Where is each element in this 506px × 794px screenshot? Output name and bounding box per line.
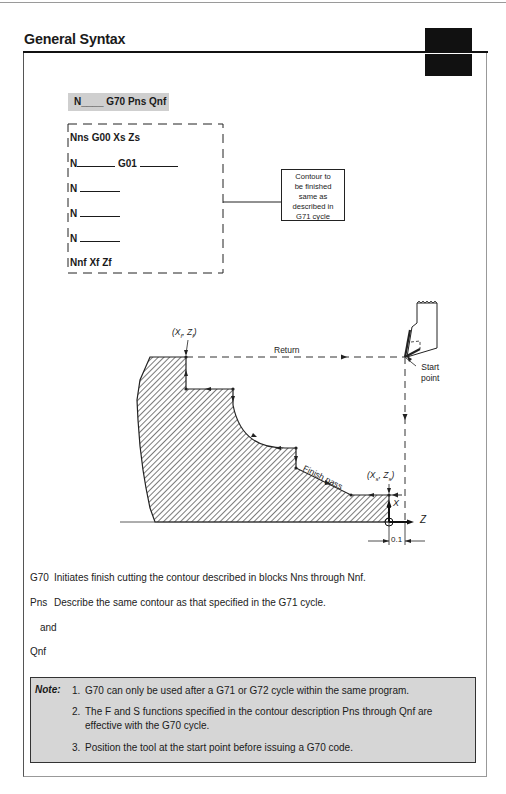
return-label: Return (274, 345, 300, 355)
axis-z-label: Z (420, 514, 426, 525)
callout-line: Contour to (282, 172, 344, 182)
start-point-label: Start point (421, 362, 439, 384)
description-pns: PnsDescribe the same contour as that spe… (30, 597, 326, 608)
program-block-n2: N (70, 207, 120, 219)
program-block-start: Nns G00 Xs Zs (70, 132, 140, 143)
cutting-tool (405, 301, 437, 357)
workpiece-section (137, 357, 389, 522)
end-point-label: (Xf, Zf) (172, 327, 197, 339)
callout-line: G71 cycle (282, 212, 344, 222)
approach-arrow-icon (403, 414, 408, 420)
description-qnf: Qnf (30, 646, 54, 657)
contour-diagram (0, 0, 506, 794)
program-block-end: Nnf Xf Zf (70, 257, 112, 268)
clearance-dimension: 0.1 (391, 535, 402, 544)
description-g70: G70Initiates finish cutting the contour … (30, 572, 366, 583)
start-coord-label: (Xs, Zs) (367, 470, 394, 482)
description-and: and (40, 622, 57, 633)
contour-callout: Contour to be finished same as described… (281, 169, 345, 221)
program-block-n1: N (70, 182, 120, 194)
program-block-g01: N G01 (70, 157, 178, 169)
callout-line: described in (282, 202, 344, 212)
callout-line: same as (282, 192, 344, 202)
note-label: Note: (35, 684, 61, 695)
note-box: Note: 1.G70 can only be used after a G71… (30, 677, 476, 763)
callout-line: be finished (282, 182, 344, 192)
return-arrow-icon (341, 355, 347, 360)
program-block-n3: N (70, 232, 120, 244)
axis-x-label: X (393, 498, 399, 508)
program-block-group (68, 124, 223, 273)
